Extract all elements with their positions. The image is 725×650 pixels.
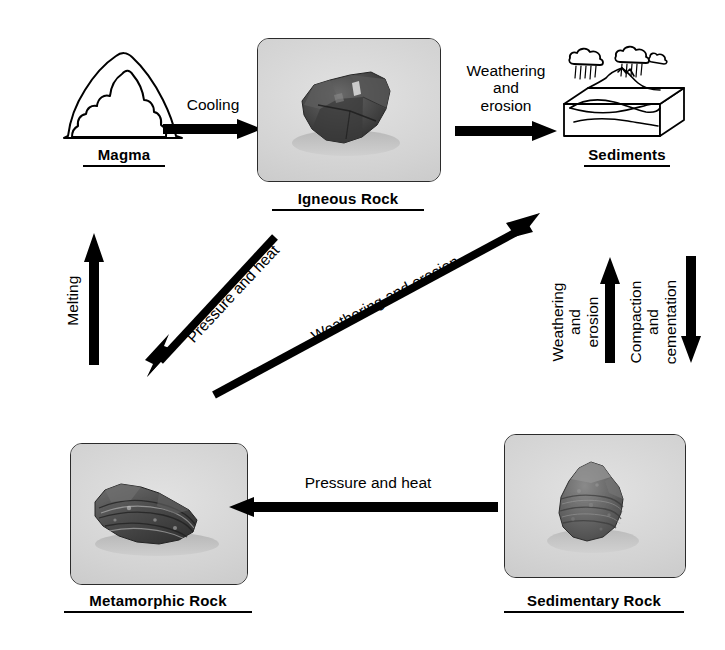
igneous-rock-photo (257, 38, 441, 182)
metamorphic-rock-label: Metamorphic Rock (48, 592, 268, 613)
compaction-arrow-label: Compaction and cementation (627, 247, 679, 397)
cooling-arrow-label: Cooling (163, 96, 263, 113)
compaction-arrow (679, 256, 703, 364)
sediment-block-diagram-icon (556, 38, 696, 148)
rock-cycle-diagram: Magma Cooling (0, 0, 725, 650)
sedimentary-rock-photo (504, 434, 686, 578)
weathering-vertical-arrow-label: Weathering and erosion (549, 257, 601, 387)
melting-arrow-label: Melting (64, 241, 81, 361)
pressure-and-heat-bottom-label: Pressure and heat (248, 474, 488, 491)
metamorphic-rock-photo (70, 443, 248, 585)
pressure-and-heat-bottom-arrow (228, 496, 498, 518)
sedimentary-rock-label: Sedimentary Rock (484, 592, 704, 613)
weathering-top-arrow (455, 120, 558, 142)
weathering-top-arrow-label: Weathering and erosion (446, 62, 566, 114)
cooling-arrow (163, 118, 263, 140)
melting-arrow (82, 232, 106, 366)
weathering-vertical-arrow (598, 256, 622, 364)
magma-label: Magma (46, 146, 202, 167)
sediments-label: Sediments (556, 146, 698, 167)
